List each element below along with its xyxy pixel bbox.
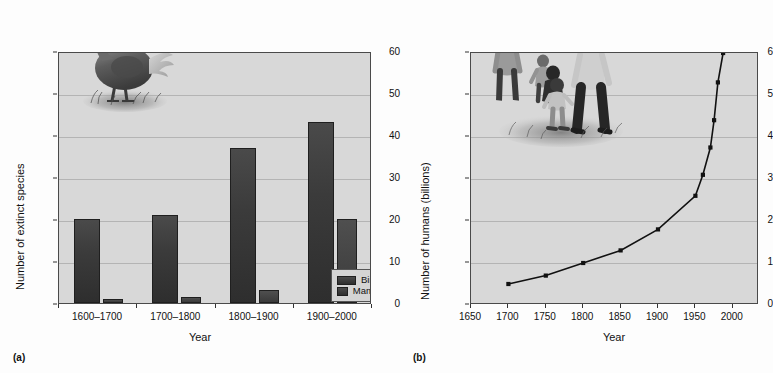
x-tick-label-4: 1850: [608, 312, 630, 322]
x-tick-label-6: 1950: [683, 312, 705, 322]
panel-b-y-axis-title: Number of humans (billions): [419, 162, 431, 300]
bar-mammals-1: [181, 297, 201, 303]
x-tick-mark-3: [582, 304, 583, 308]
data-point-10: [721, 52, 725, 55]
x-tick-label-1: 1700: [496, 312, 518, 322]
y-tick-mark-1: [465, 262, 469, 263]
data-point-2: [581, 261, 585, 265]
x-tick-label-3: 1800: [571, 312, 593, 322]
panel-b-plot-area: [470, 52, 758, 304]
x-tick-mark-1: [507, 304, 508, 308]
y-tick-mark-20: [53, 220, 57, 221]
panel-b-x-axis-title: Year: [470, 331, 758, 343]
panel-a-x-axis-title: Year: [0, 331, 400, 343]
data-point-8: [712, 118, 716, 122]
x-tick-mark-3: [293, 304, 294, 308]
y-tick-mark-6: [465, 52, 469, 53]
x-tick-mark-4: [371, 304, 372, 308]
panel-a: Number of extinct species 0102030405060: [0, 0, 400, 373]
x-tick-mark-0: [470, 304, 471, 308]
panel-a-legend: Birds Mammals: [331, 269, 371, 302]
data-point-4: [656, 227, 660, 231]
panel-b-tag: (b): [413, 352, 426, 363]
x-tick-mark-2: [545, 304, 546, 308]
legend-item-mammals: Mammals: [337, 286, 371, 296]
x-tick-label-3: 1900–2000: [307, 312, 357, 322]
legend-item-birds: Birds: [337, 275, 371, 285]
y-tick-mark-50: [53, 94, 57, 95]
x-tick-label-1: 1700–1800: [150, 312, 200, 322]
legend-swatch-mammals: [337, 287, 348, 296]
y-tick-mark-5: [465, 94, 469, 95]
y-tick-mark-10: [53, 262, 57, 263]
x-tick-label-0: 1650: [459, 312, 481, 322]
x-tick-mark-4: [620, 304, 621, 308]
x-tick-mark-7: [732, 304, 733, 308]
panel-b: Number of humans (billions) 0123456: [395, 0, 773, 373]
y-tick-mark-60: [53, 52, 57, 53]
data-point-3: [619, 248, 623, 252]
x-tick-mark-0: [58, 304, 59, 308]
y-tick-mark-0: [53, 304, 57, 305]
bar-birds-2: [230, 148, 256, 303]
data-point-0: [506, 282, 510, 286]
y-tick-mark-4: [465, 136, 469, 137]
y-tick-mark-0: [465, 304, 469, 305]
data-point-5: [693, 194, 697, 198]
x-tick-label-5: 1900: [646, 312, 668, 322]
y-tick-mark-3: [465, 178, 469, 179]
x-tick-mark-6: [694, 304, 695, 308]
panel-a-plot-area: Birds Mammals: [58, 52, 371, 304]
x-tick-mark-5: [657, 304, 658, 308]
figure-container: Number of extinct species 0102030405060: [0, 0, 773, 373]
bar-birds-0: [74, 219, 100, 303]
y-tick-mark-40: [53, 136, 57, 137]
bar-birds-1: [152, 215, 178, 303]
x-tick-mark-1: [136, 304, 137, 308]
legend-swatch-birds: [337, 276, 356, 285]
bar-mammals-0: [103, 299, 123, 303]
data-point-9: [716, 80, 720, 84]
x-tick-label-2: 1750: [534, 312, 556, 322]
panel-a-tag: (a): [13, 352, 25, 363]
x-tick-mark-2: [215, 304, 216, 308]
y-tick-mark-2: [465, 220, 469, 221]
panel-a-bars: [59, 53, 370, 303]
data-point-7: [708, 145, 712, 149]
legend-label-birds: Birds: [361, 275, 371, 285]
x-tick-label-0: 1600–1700: [72, 312, 122, 322]
data-point-1: [544, 274, 548, 278]
panel-b-line-series: [471, 53, 758, 304]
y-tick-mark-30: [53, 178, 57, 179]
legend-label-mammals: Mammals: [353, 286, 371, 296]
bar-mammals-2: [259, 290, 279, 303]
x-tick-label-7: 2000: [721, 312, 743, 322]
population-line: [508, 53, 723, 284]
x-tick-label-2: 1800–1900: [229, 312, 279, 322]
panel-a-y-axis-title: Number of extinct species: [14, 163, 26, 290]
data-point-6: [701, 173, 705, 177]
